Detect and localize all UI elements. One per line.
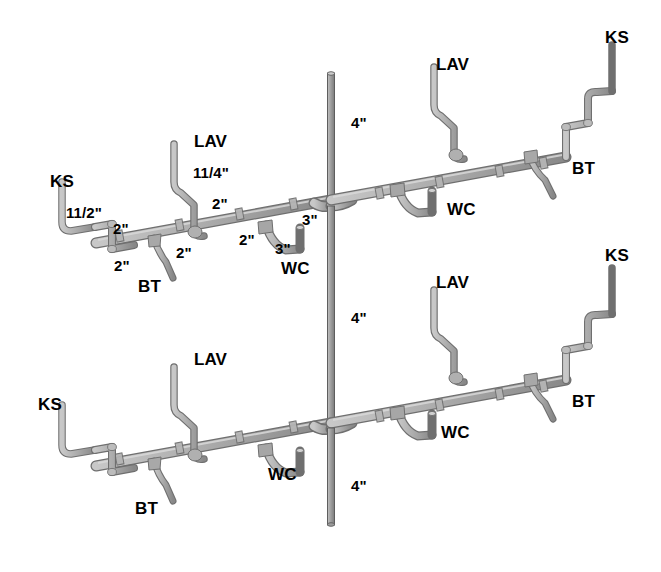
upper-floor-label-u-dim-2c: 2"	[176, 245, 192, 260]
plumbing-isometric-diagram: KS11/2"2"2"BT2"LAV11/4"2"2"3"3"WC4"LAVWC…	[0, 0, 661, 572]
lower-bt-left-branch	[148, 457, 173, 501]
lower-floor-label-l-ks-right: KS	[605, 247, 629, 264]
upper-floor-label-u-dim-114: 11/4"	[193, 165, 229, 180]
lower-floor-label-l-wc-left: WC	[268, 466, 297, 483]
lower-floor-label-l-bt-left: BT	[135, 500, 158, 517]
upper-floor-label-u-dim-2d: 2"	[212, 196, 228, 211]
upper-floor-label-u-bt-right: BT	[572, 160, 595, 177]
vent-stack-middle	[328, 206, 335, 428]
upper-floor-label-u-dim-3a: 3"	[302, 212, 318, 227]
upper-floor-label-u-wc-right: WC	[447, 201, 476, 218]
lower-ks-right-branch	[562, 268, 612, 380]
upper-floor-label-u-lav-left: LAV	[194, 133, 227, 150]
upper-floor-label-u-ks-right: KS	[605, 29, 629, 46]
pipe-network-drawing	[0, 0, 661, 572]
vent-stack-lower	[328, 428, 335, 526]
upper-floor-label-u-dim-2a: 2"	[113, 221, 129, 236]
lower-floor-label-l-ks-left: KS	[38, 396, 62, 413]
upper-floor-assembly	[62, 45, 612, 278]
lower-floor-label-l-lav-left: LAV	[194, 351, 227, 368]
lower-floor-label-l-lav-right: LAV	[436, 274, 469, 291]
upper-floor-label-u-dim-3b: 3"	[275, 241, 291, 256]
upper-floor-label-u-wc-left: WC	[281, 260, 310, 277]
lower-floor-label-l-dim-4a: 4"	[351, 310, 367, 325]
upper-floor-label-u-bt-left: BT	[138, 278, 161, 295]
upper-floor-label-u-dim-112: 11/2"	[66, 205, 102, 220]
upper-floor-label-u-dim-2e: 2"	[239, 232, 255, 247]
upper-floor-label-u-dim-4: 4"	[351, 115, 367, 130]
lower-floor-label-l-bt-right: BT	[572, 393, 595, 410]
upper-floor-label-u-ks-left: KS	[50, 173, 74, 190]
lower-floor-label-l-wc-right: WC	[441, 424, 470, 441]
lower-lav-right-branch	[434, 290, 464, 384]
lower-floor-label-l-dim-4b: 4"	[351, 478, 367, 493]
upper-lav-right-branch	[434, 67, 464, 161]
upper-bt-left-branch	[148, 234, 173, 278]
lower-floor-assembly	[62, 268, 612, 501]
upper-ks-right-branch	[562, 45, 612, 157]
vent-stack-upper	[328, 72, 335, 206]
upper-floor-label-u-dim-2b: 2"	[114, 258, 130, 273]
upper-floor-label-u-lav-right: LAV	[436, 56, 469, 73]
